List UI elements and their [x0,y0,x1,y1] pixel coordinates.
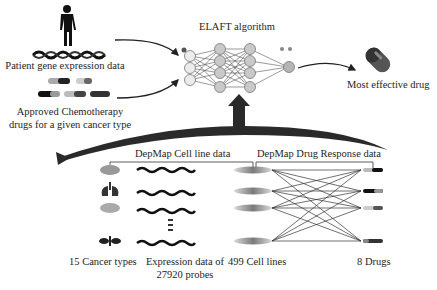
cell-lines-label: 499 Cell lines [228,256,286,268]
arrow-to-output [298,63,355,70]
expression-label-line2: 27920 probes [135,269,235,281]
expression-dna-icons [137,168,195,245]
drug-pill-icons [363,168,383,243]
output-capsule-icon [362,44,393,75]
person-icon [60,5,76,46]
cancer-types-label: 15 Cancer types [69,256,137,268]
arrow-drugs-to-algorithm [117,80,178,98]
output-label: Most effective drug [347,79,430,91]
arrow-patient-to-algorithm [115,40,178,55]
cell-line-icons [234,167,272,245]
drugs-count-label: 8 Drugs [357,256,391,268]
expression-label-line1: Expression data of [135,256,235,268]
drugs-label-line1: Approved Chemotherapy [0,106,140,118]
neural-network-icon [182,44,295,93]
pill-icons [38,78,110,97]
cancer-type-icons [99,165,121,246]
up-arrow-icon [228,94,250,130]
drugs-label-line2: drugs for a given cancer type [0,119,140,131]
bracket-drug-response [256,162,373,170]
diagram-canvas [0,0,437,290]
patient-data-label: Patient gene expression data [0,60,130,72]
dna-helix-icon [33,52,105,58]
ellipsis-dots [168,219,173,231]
cell-line-header: DepMap Cell line data [135,148,230,160]
drug-response-header: DepMap Drug Response data [257,148,381,160]
drug-response-connections [272,170,361,241]
algorithm-title: ELAFT algorithm [199,21,275,33]
